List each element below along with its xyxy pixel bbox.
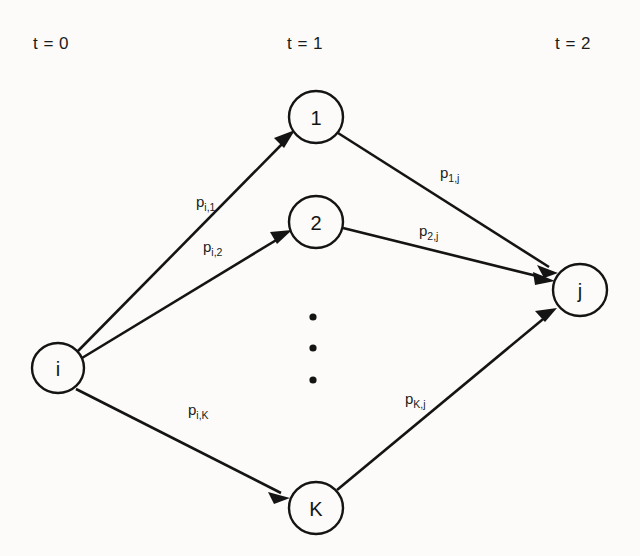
arrowhead-K-j — [535, 308, 557, 322]
time-label-t0: t = 0 — [33, 34, 69, 53]
ellipsis-dot-3 — [309, 376, 316, 383]
edge-label-2-j: p2,j — [419, 222, 438, 242]
arrowhead-i-1 — [274, 130, 295, 148]
diagram-canvas: t = 0 t = 1 t = 2 pi,1 pi,2 pi,K — [0, 0, 640, 556]
edge-label-i-K: pi,K — [188, 401, 209, 421]
node-i-label: i — [56, 358, 60, 380]
node-2[interactable]: 2 — [289, 196, 343, 248]
edge-label-K-j-sub: K,j — [413, 398, 425, 410]
trellis-diagram: t = 0 t = 1 t = 2 pi,1 pi,2 pi,K — [0, 0, 640, 556]
edge-i-to-1: pi,1 — [77, 130, 295, 352]
edge-label-1-j-sub: 1,j — [448, 172, 459, 184]
edge-label-i-1-sub: i,1 — [204, 201, 215, 213]
time-label-t1: t = 1 — [287, 34, 323, 53]
edge-line-2-j — [343, 228, 545, 278]
node-j-label: j — [577, 280, 582, 302]
edge-label-i-1-base: p — [196, 193, 204, 210]
node-2-label: 2 — [310, 212, 321, 234]
node-K-label: K — [309, 498, 323, 520]
vertical-ellipsis — [309, 313, 316, 383]
arrowhead-i-K — [268, 492, 290, 504]
edge-line-i-1 — [77, 138, 288, 352]
edge-label-i-2-base: p — [203, 238, 211, 255]
edge-i-to-K: pi,K — [76, 389, 290, 504]
edge-2-to-j: p2,j — [343, 222, 555, 285]
time-axis-group: t = 0 t = 1 t = 2 — [33, 34, 591, 53]
edge-label-i-K-sub: i,K — [196, 409, 208, 421]
edge-label-1-j: p1,j — [440, 164, 459, 184]
node-1[interactable]: 1 — [289, 91, 343, 143]
edge-line-1-j — [338, 133, 549, 267]
edge-line-i-2 — [82, 236, 283, 358]
edge-K-to-j: pK,j — [337, 308, 557, 490]
edge-label-K-j-base: p — [405, 390, 413, 407]
node-1-label: 1 — [310, 107, 321, 129]
node-i[interactable]: i — [32, 343, 84, 393]
edge-label-K-j: pK,j — [405, 390, 426, 410]
edge-1-to-j: p1,j — [338, 133, 558, 278]
edge-line-i-K — [76, 389, 281, 493]
time-label-t2: t = 2 — [555, 34, 591, 53]
edge-label-i-1: pi,1 — [196, 193, 216, 213]
ellipsis-dot-2 — [309, 344, 316, 351]
edge-label-i-2: pi,2 — [203, 238, 223, 258]
edges-group: pi,1 pi,2 pi,K p1,j p2,j — [76, 130, 558, 504]
ellipsis-dot-1 — [309, 313, 316, 320]
nodes-group: i 1 2 K j — [32, 91, 607, 534]
node-K[interactable]: K — [289, 482, 343, 534]
edge-line-K-j — [337, 315, 548, 490]
edge-label-2-j-sub: 2,j — [427, 230, 438, 242]
node-j[interactable]: j — [553, 264, 607, 316]
edge-i-to-2: pi,2 — [82, 230, 292, 358]
edge-label-i-K-base: p — [188, 401, 196, 418]
edge-label-i-2-sub: i,2 — [211, 246, 222, 258]
edge-label-2-j-base: p — [419, 222, 427, 239]
edge-label-1-j-base: p — [440, 164, 448, 181]
